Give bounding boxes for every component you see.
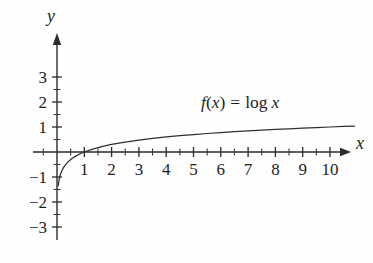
x-tick-label: 1 bbox=[80, 160, 89, 179]
close-paren: ) bbox=[219, 92, 225, 112]
function-argument: x bbox=[211, 92, 220, 112]
y-tick-label: −3 bbox=[29, 218, 47, 237]
log-argument: x bbox=[271, 92, 280, 112]
x-axis-arrowhead bbox=[340, 148, 351, 156]
x-tick-label: 3 bbox=[135, 160, 144, 179]
x-tick-label: 10 bbox=[322, 160, 339, 179]
log-function-chart: 12345678910 −3−2−1123 x y f(x)=logx bbox=[0, 0, 373, 263]
x-tick-label: 6 bbox=[217, 160, 226, 179]
y-tick-label: −2 bbox=[29, 193, 47, 212]
x-tick-label: 7 bbox=[244, 160, 253, 179]
x-tick-label: 2 bbox=[107, 160, 116, 179]
x-tick-label: 5 bbox=[189, 160, 198, 179]
log-operator: log bbox=[245, 92, 268, 112]
axes-group bbox=[33, 33, 351, 240]
y-tick-label: −1 bbox=[29, 168, 47, 187]
y-tick-label: 2 bbox=[39, 93, 48, 112]
x-tick-label: 9 bbox=[298, 160, 307, 179]
x-axis-label: x bbox=[355, 133, 364, 153]
y-tick-label: 1 bbox=[39, 118, 48, 137]
y-axis-arrowhead bbox=[53, 33, 61, 45]
y-tick-label: 3 bbox=[39, 68, 48, 87]
x-tick-label: 8 bbox=[271, 160, 280, 179]
x-axis-tick-labels: 12345678910 bbox=[80, 160, 338, 179]
y-axis-label: y bbox=[45, 6, 55, 26]
log-curve bbox=[58, 126, 354, 186]
logarithm-function-figure: 12345678910 −3−2−1123 x y f(x)=logx bbox=[0, 0, 373, 263]
function-equation-label: f(x)=logx bbox=[201, 92, 280, 112]
equals-sign: = bbox=[230, 92, 240, 112]
x-tick-label: 4 bbox=[162, 160, 171, 179]
